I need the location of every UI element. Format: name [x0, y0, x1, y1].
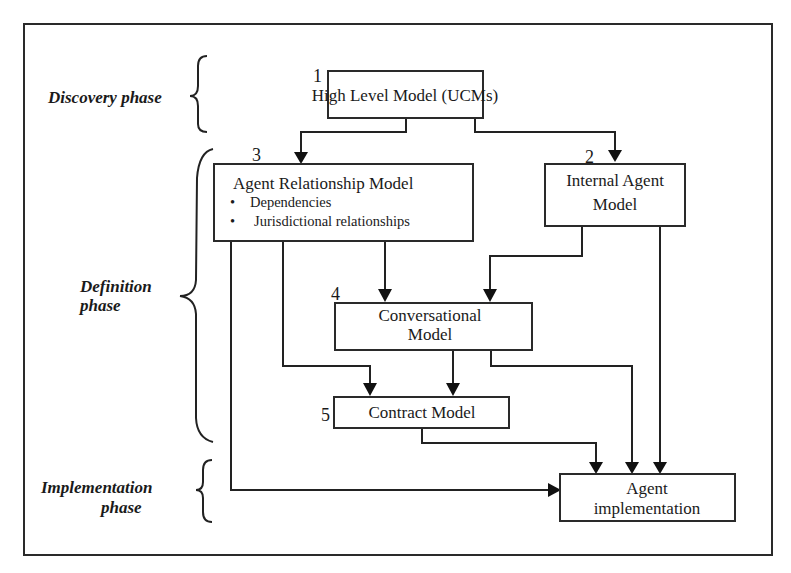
conversational-model-box[interactable]: 4 Conversational Model — [331, 284, 532, 350]
conversational-model-label-line2: Model — [408, 325, 453, 344]
high-level-model-label: High Level Model (UCMs) — [312, 86, 499, 105]
contract-model-box[interactable]: 5 Contract Model — [321, 397, 509, 428]
definition-brace — [180, 149, 213, 442]
internal-agent-model-number: 2 — [585, 147, 594, 167]
agent-relationship-model-number: 3 — [252, 145, 261, 165]
agent-implementation-label-line2: implementation — [594, 499, 701, 518]
agent-implementation-label-line1: Agent — [626, 479, 668, 498]
agent-implementation-box[interactable]: Agent implementation — [560, 474, 735, 521]
bullet-icon: • — [230, 213, 235, 229]
implementation-phase-label-line1: Implementation — [40, 478, 152, 497]
internal-agent-model-label-line1: Internal Agent — [566, 171, 664, 190]
high-level-model-number: 1 — [313, 66, 322, 86]
implementation-brace — [196, 460, 212, 522]
contract-model-number: 5 — [321, 405, 330, 425]
contract-model-label: Contract Model — [368, 403, 475, 422]
bullet-jurisdictional-relationships: Jurisdictional relationships — [254, 213, 410, 229]
definition-phase-label-line1: Definition — [79, 277, 152, 296]
discovery-phase-label: Discovery phase — [47, 88, 162, 107]
bullet-dependencies: Dependencies — [250, 194, 332, 210]
agent-relationship-model-title: Agent Relationship Model — [233, 174, 414, 193]
conversational-model-label-line1: Conversational — [379, 306, 482, 325]
definition-phase-label-line2: phase — [78, 296, 121, 315]
bullet-icon: • — [230, 194, 235, 210]
agent-methodology-diagram: Discovery phase Definition phase Impleme… — [0, 0, 791, 573]
internal-agent-model-label-line2: Model — [593, 195, 638, 214]
agent-relationship-model-box[interactable]: 3 Agent Relationship Model • Dependencie… — [214, 145, 473, 241]
high-level-model-box[interactable]: 1 High Level Model (UCMs) — [312, 66, 499, 118]
discovery-brace — [190, 56, 207, 132]
implementation-phase-label-line2: phase — [99, 498, 142, 517]
conversational-model-number: 4 — [331, 284, 340, 304]
